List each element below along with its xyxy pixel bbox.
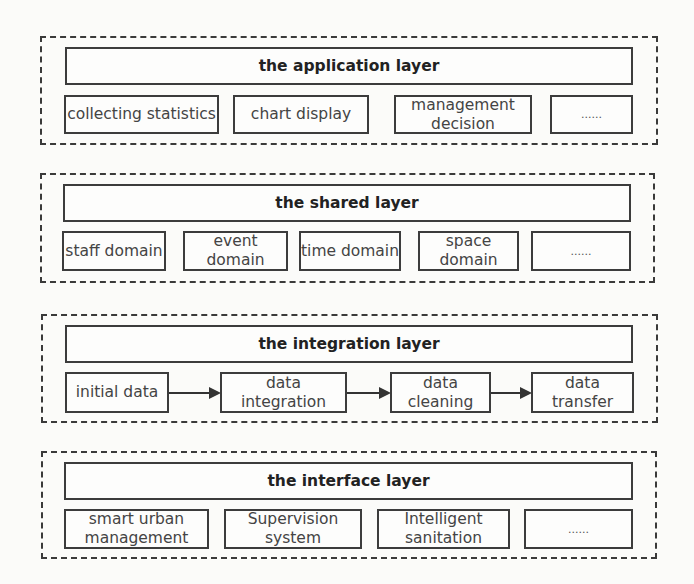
arrow-right-icon: [491, 392, 530, 394]
application-item-collecting-statistics: collecting statistics: [64, 95, 219, 134]
shared-item-event-domain: event domain: [183, 231, 288, 271]
arrow-right-icon: [169, 392, 219, 394]
interface-item-smart-urban-management: smart urban management: [64, 509, 209, 549]
integration-layer-header: the integration layer: [65, 325, 633, 363]
integration-step-data-cleaning: data cleaning: [390, 372, 491, 413]
shared-item-space-domain: space domain: [418, 231, 519, 271]
integration-step-initial-data: initial data: [65, 372, 169, 413]
shared-item-more: ......: [531, 231, 631, 271]
shared-layer-header: the shared layer: [63, 184, 631, 222]
integration-step-data-transfer: data transfer: [531, 372, 634, 413]
interface-item-intelligent-sanitation: Intelligent sanitation: [377, 509, 510, 549]
shared-item-time-domain: time domain: [299, 231, 401, 271]
interface-layer-header: the interface layer: [64, 462, 633, 500]
application-layer-header: the application layer: [65, 47, 633, 85]
application-item-management-decision: management decision: [394, 95, 532, 134]
interface-item-supervision-system: Supervision system: [224, 509, 362, 549]
application-item-chart-display: chart display: [233, 95, 369, 134]
arrow-right-icon: [347, 392, 389, 394]
interface-item-more: ......: [524, 509, 633, 549]
integration-step-data-integration: data integration: [220, 372, 347, 413]
shared-item-staff-domain: staff domain: [62, 231, 166, 271]
application-item-more: ......: [550, 95, 633, 134]
